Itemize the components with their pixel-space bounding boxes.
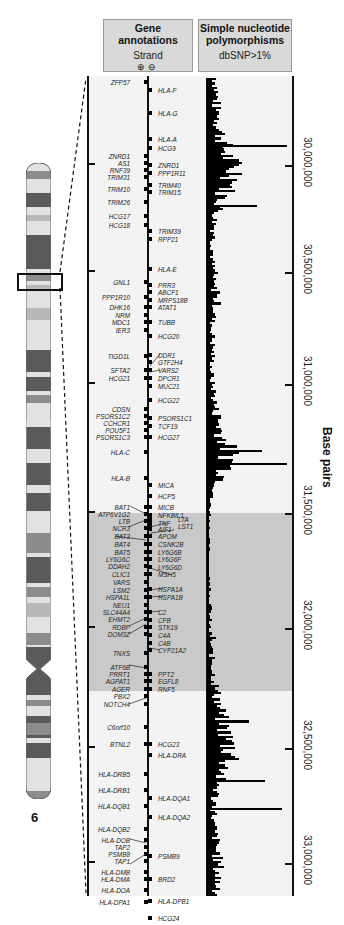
chromosome-lower-bands (26, 163, 51, 803)
chromosome-number-label: 6 (31, 810, 38, 825)
gene-connector-lines (0, 0, 344, 925)
region-highlight-box (17, 273, 63, 291)
